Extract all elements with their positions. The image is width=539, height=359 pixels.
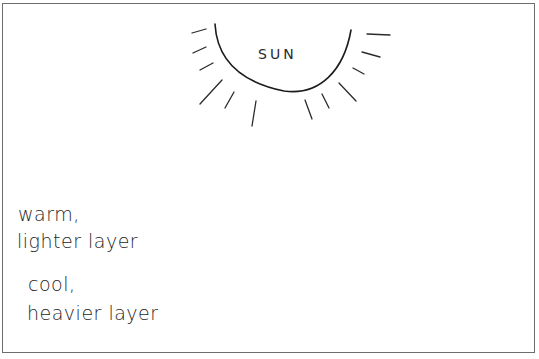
sun-icon: [192, 24, 390, 126]
warm-layer-label-line2: lighter layer: [17, 229, 138, 253]
cool-layer-label-line2: heavier layer: [27, 301, 159, 325]
warm-layer-label-line1: warm,: [18, 202, 80, 226]
cool-layer-label-line1: cool,: [28, 272, 76, 296]
sun-label: SUN: [258, 46, 297, 62]
